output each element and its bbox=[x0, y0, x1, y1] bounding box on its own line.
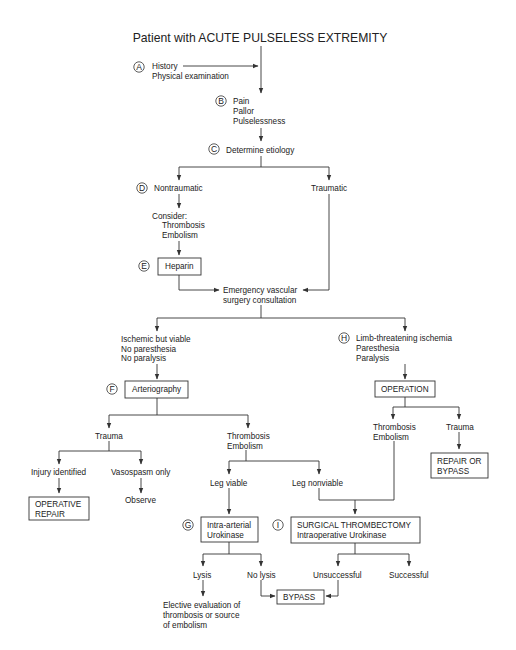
marker-h: H bbox=[339, 333, 349, 343]
vasospasm-node: Vasospasm only bbox=[111, 468, 171, 477]
svg-text:surgery consultation: surgery consultation bbox=[223, 296, 297, 305]
arteriography-label: Arteriography bbox=[132, 385, 182, 394]
trauma-left-node: Trauma bbox=[95, 432, 123, 441]
svg-text:Thrombosis: Thrombosis bbox=[373, 423, 416, 432]
no-lysis-node: No lysis bbox=[247, 571, 276, 580]
marker-i: I bbox=[273, 520, 283, 530]
svg-text:REPAIR OR: REPAIR OR bbox=[437, 457, 482, 466]
merge-to-thrombectomy bbox=[319, 441, 394, 500]
symptoms-node: Pain Pallor Pulselessness bbox=[233, 97, 285, 126]
svg-text:Emergency vascular: Emergency vascular bbox=[223, 286, 297, 295]
svg-text:Intraoperative Urokinase: Intraoperative Urokinase bbox=[297, 531, 387, 540]
svg-text:Consider:: Consider: bbox=[152, 212, 187, 221]
leg-viable-node: Leg viable bbox=[210, 479, 248, 488]
heparin-label: Heparin bbox=[165, 262, 194, 271]
thrombo-right-node: Thrombosis Embolism bbox=[373, 423, 416, 442]
svg-text:BYPASS: BYPASS bbox=[437, 467, 470, 476]
elective-node: Elective evaluation of thrombosis or sou… bbox=[163, 601, 241, 630]
svg-text:History: History bbox=[152, 62, 178, 71]
lysis-node: Lysis bbox=[193, 571, 211, 580]
svg-text:Ischemic but viable: Ischemic but viable bbox=[121, 335, 191, 344]
svg-text:Paralysis: Paralysis bbox=[356, 354, 389, 363]
svg-text:Limb-threatening ischemia: Limb-threatening ischemia bbox=[356, 334, 452, 343]
svg-text:No paralysis: No paralysis bbox=[121, 354, 166, 363]
svg-text:Pallor: Pallor bbox=[233, 107, 254, 116]
svg-text:Pain: Pain bbox=[233, 97, 250, 106]
nontraumatic-node: Nontraumatic bbox=[154, 184, 203, 193]
unsuccessful-node: Unsuccessful bbox=[313, 571, 362, 580]
svg-text:A: A bbox=[136, 62, 142, 72]
viable-node: Ischemic but viable No paresthesia No pa… bbox=[121, 335, 191, 363]
thrombo-mid-node: Thrombosis Embolism bbox=[227, 432, 270, 451]
marker-g: G bbox=[183, 520, 193, 530]
svg-text:Elective evaluation of: Elective evaluation of bbox=[163, 601, 241, 610]
marker-d: D bbox=[137, 183, 147, 193]
threatening-node: Limb-threatening ischemia Paresthesia Pa… bbox=[356, 334, 452, 363]
svg-text:SURGICAL THROMBECTOMY: SURGICAL THROMBECTOMY bbox=[297, 521, 412, 530]
svg-text:Thrombosis: Thrombosis bbox=[162, 221, 205, 230]
history-node: History Physical examination bbox=[152, 62, 229, 81]
successful-node: Successful bbox=[389, 571, 429, 580]
etiology-node: Determine etiology bbox=[226, 146, 295, 155]
svg-text:Pulselessness: Pulselessness bbox=[233, 117, 285, 126]
injury-node: Injury identified bbox=[31, 468, 87, 477]
arrow-traumatic-to-consultation bbox=[303, 194, 329, 290]
svg-text:Physical examination: Physical examination bbox=[152, 72, 229, 81]
consultation-node: Emergency vascular surgery consultation bbox=[223, 286, 297, 305]
marker-c: C bbox=[209, 144, 219, 154]
arrow-no-lysis-to-bypass bbox=[261, 580, 275, 596]
svg-text:of embolism: of embolism bbox=[163, 621, 207, 630]
arrow-unsuccessful-to-bypass bbox=[326, 580, 338, 596]
svg-text:G: G bbox=[185, 520, 192, 530]
svg-text:C: C bbox=[211, 144, 217, 154]
svg-text:Intra-arterial: Intra-arterial bbox=[207, 521, 251, 530]
flowchart: Patient with ACUTE PULSELESS EXTREMITY bbox=[0, 0, 516, 650]
svg-text:H: H bbox=[341, 333, 347, 343]
svg-text:Urokinase: Urokinase bbox=[207, 531, 244, 540]
svg-text:B: B bbox=[218, 96, 224, 106]
marker-e: E bbox=[139, 261, 149, 271]
svg-text:OPERATIVE: OPERATIVE bbox=[35, 500, 82, 509]
svg-text:Embolism: Embolism bbox=[227, 442, 263, 451]
trauma-right-node: Trauma bbox=[446, 423, 474, 432]
svg-text:Thrombosis: Thrombosis bbox=[227, 432, 270, 441]
svg-text:D: D bbox=[139, 183, 145, 193]
consider-node: Consider: Thrombosis Embolism bbox=[152, 212, 205, 240]
svg-text:thrombosis or source: thrombosis or source bbox=[163, 611, 240, 620]
marker-b: B bbox=[216, 96, 226, 106]
svg-text:F: F bbox=[109, 384, 114, 394]
svg-text:E: E bbox=[141, 261, 147, 271]
arrow-heparin-to-consultation bbox=[179, 275, 219, 290]
svg-text:Paresthesia: Paresthesia bbox=[356, 344, 400, 353]
marker-a: A bbox=[134, 62, 144, 72]
leg-nonviable-node: Leg nonviable bbox=[292, 479, 343, 488]
page-title: Patient with ACUTE PULSELESS EXTREMITY bbox=[133, 31, 388, 45]
operation-label: OPERATION bbox=[381, 385, 429, 394]
connectors bbox=[59, 46, 459, 596]
svg-text:No paresthesia: No paresthesia bbox=[121, 345, 177, 354]
observe-node: Observe bbox=[125, 496, 156, 505]
svg-text:Embolism: Embolism bbox=[373, 433, 409, 442]
bypass-label: BYPASS bbox=[283, 593, 316, 602]
svg-text:Embolism: Embolism bbox=[162, 231, 198, 240]
traumatic-node: Traumatic bbox=[311, 184, 347, 193]
svg-text:I: I bbox=[277, 520, 279, 530]
svg-text:REPAIR: REPAIR bbox=[35, 510, 65, 519]
marker-f: F bbox=[107, 384, 117, 394]
